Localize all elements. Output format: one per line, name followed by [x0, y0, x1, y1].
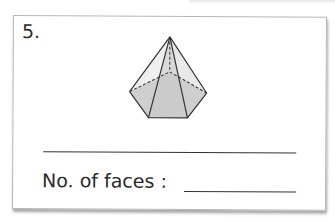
adjacent-card-shadow	[190, 0, 335, 4]
question-card: 5. No. of faces :	[12, 15, 327, 211]
faces-label: No. of faces :	[42, 169, 167, 192]
